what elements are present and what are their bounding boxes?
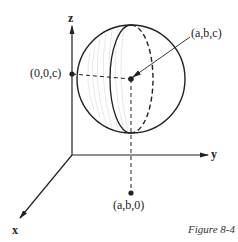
xy-projection-label: (a,b,0)	[113, 199, 144, 211]
sphere-shading	[88, 27, 128, 132]
figure-caption: Figure 8-4	[188, 224, 235, 235]
center-point-label: (a,b,c)	[191, 27, 222, 39]
meridian-back	[131, 25, 153, 133]
z-axis-label: z	[68, 12, 73, 24]
figure-canvas: z y x (a,b,c) (0,0,c) (a,b,0) Figure 8-4	[0, 0, 238, 242]
center-pointer	[133, 37, 190, 77]
x-axis	[20, 155, 72, 218]
x-axis-label: x	[12, 224, 18, 236]
projection-to-z	[72, 74, 131, 79]
xy-projection-point	[128, 190, 133, 195]
center-point	[128, 76, 134, 82]
z-projection-point	[69, 71, 74, 76]
y-axis-label: y	[211, 148, 217, 160]
z-projection-label: (0,0,c)	[30, 67, 61, 79]
